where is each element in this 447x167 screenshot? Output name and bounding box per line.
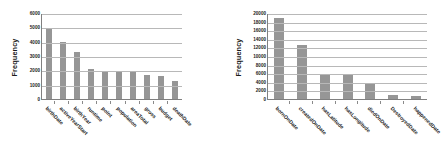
- gridline: [268, 40, 427, 41]
- gridline: [42, 28, 182, 29]
- x-axis-label-slot: DestroyedDate: [381, 104, 404, 164]
- y-axis-tick-label: 20000: [253, 12, 266, 17]
- bar: [274, 18, 284, 99]
- x-axis-label-slot: activeYearStart: [55, 104, 69, 164]
- x-axis-label-slot: budget: [154, 104, 168, 164]
- y-axis-tick-label: 12000: [253, 46, 266, 51]
- x-axis-label-slot: happenedDate: [404, 104, 427, 164]
- bar: [172, 81, 178, 99]
- x-axis-label-slot: runtime: [83, 104, 97, 164]
- y-axis-tick-label: 18000: [253, 20, 266, 25]
- gridline: [268, 48, 427, 49]
- y-axis-tick-label: 10000: [253, 55, 266, 60]
- gridline: [42, 14, 182, 15]
- gridline: [42, 57, 182, 58]
- x-axis-labels-left: birthDateactiveYearStartbirthYearruntime…: [41, 104, 182, 164]
- two-bar-charts-figure: Frequency 0100020003000400050006000 birt…: [0, 0, 447, 167]
- bar: [144, 75, 150, 99]
- chart-panel-right: Frequency 020004000600080001000012000140…: [223, 0, 447, 167]
- bar: [158, 76, 164, 99]
- y-axis-tick-label: 6000: [256, 72, 266, 77]
- bar: [60, 42, 66, 99]
- x-axis-label-slot: bornOnDate: [267, 104, 290, 164]
- y-axis-tick-label: 2000: [256, 89, 266, 94]
- x-axis-label-slot: hasLatitude: [313, 104, 336, 164]
- x-axis-label-slot: point: [97, 104, 111, 164]
- bar: [411, 96, 421, 99]
- y-axis-tick-label: 14000: [253, 38, 266, 43]
- gridline: [268, 57, 427, 58]
- x-axis-label-slot: hasLongitude: [336, 104, 359, 164]
- x-axis-label-slot: gross: [140, 104, 154, 164]
- x-axis-label-slot: birthDate: [41, 104, 55, 164]
- x-axis-label-slot: areaTotal: [126, 104, 140, 164]
- y-axis-tick-label: 0: [37, 98, 40, 103]
- gridline: [42, 43, 182, 44]
- x-axis-label-slot: population: [111, 104, 125, 164]
- y-axis-tick-label: 1000: [30, 83, 40, 88]
- gridline: [268, 83, 427, 84]
- bar: [320, 75, 330, 99]
- gridline: [268, 91, 427, 92]
- plot-area-right: [267, 14, 427, 100]
- bar: [343, 75, 353, 99]
- gridline: [268, 23, 427, 24]
- y-axis-tick-label: 5000: [30, 26, 40, 31]
- y-axis-tick-labels-left: 0100020003000400050006000: [14, 14, 40, 100]
- bar: [74, 52, 80, 99]
- gridline: [42, 86, 182, 87]
- x-axis-label: happenedDate: [412, 106, 441, 135]
- plot-area-left: [41, 14, 182, 100]
- gridline: [268, 14, 427, 15]
- x-axis-labels-right: bornOnDatecreatedOnDatehasLatitudehasLon…: [267, 104, 427, 164]
- gridline: [42, 71, 182, 72]
- y-axis-tick-label: 0: [263, 98, 266, 103]
- y-axis-tick-label: 6000: [30, 12, 40, 17]
- gridline: [268, 31, 427, 32]
- y-axis-tick-labels-right: 0200040006000800010000120001400016000180…: [240, 14, 266, 100]
- x-axis-label-slot: diedOnDate: [358, 104, 381, 164]
- y-axis-tick-label: 8000: [256, 63, 266, 68]
- x-axis-label-slot: birthYear: [69, 104, 83, 164]
- y-axis-tick-label: 4000: [30, 40, 40, 45]
- x-axis-label: deathDate: [171, 106, 192, 127]
- x-axis-label-slot: deathDate: [168, 104, 182, 164]
- bar: [388, 95, 398, 99]
- gridline: [268, 66, 427, 67]
- y-axis-tick-label: 16000: [253, 29, 266, 34]
- y-axis-tick-label: 3000: [30, 55, 40, 60]
- x-axis-label-slot: createdOnDate: [290, 104, 313, 164]
- gridline: [268, 74, 427, 75]
- y-axis-tick-label: 2000: [30, 69, 40, 74]
- bar: [46, 29, 52, 99]
- bar: [88, 69, 94, 99]
- chart-panel-left: Frequency 0100020003000400050006000 birt…: [0, 0, 223, 167]
- y-axis-tick-label: 4000: [256, 81, 266, 86]
